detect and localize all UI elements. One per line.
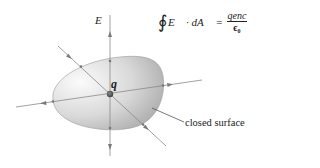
gauss-law-formula: ∮ E⃗ · dA⃗ = qenc ϵ₀ <box>158 10 247 33</box>
field-label-E: E <box>95 14 102 26</box>
closed-integral-icon: ∮ <box>158 13 167 31</box>
formula-denominator: ϵ₀ <box>233 22 240 33</box>
surface-point <box>52 100 55 103</box>
surface-point <box>109 127 112 130</box>
arrow-icon <box>108 144 112 150</box>
surface-point <box>162 84 165 87</box>
arrow-icon <box>167 83 173 87</box>
formula-numerator: qenc <box>227 10 248 22</box>
surface-pointer-line <box>152 108 184 122</box>
arrow-icon <box>108 31 112 37</box>
surface-point <box>109 60 112 63</box>
charge-label-q: q <box>111 77 117 92</box>
surface-point <box>142 123 145 126</box>
formula-lhs: E⃗ · dA⃗ <box>168 16 212 28</box>
formula-fraction: qenc ϵ₀ <box>227 10 248 33</box>
surface-point <box>80 65 83 68</box>
closed-surface-label: closed surface <box>185 117 245 128</box>
formula-equals: = <box>216 16 222 28</box>
